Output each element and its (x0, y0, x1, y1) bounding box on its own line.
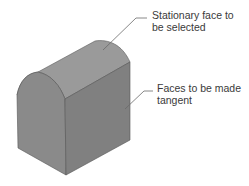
callout-tangent-line1: Faces to be made (157, 82, 241, 94)
callout-tangent-line2: tangent (157, 94, 241, 106)
callout-stationary-line2: be selected (152, 21, 234, 33)
callout-stationary-face: Stationary face to be selected (152, 9, 234, 33)
left-arched-face (17, 72, 66, 175)
callout-tangent-faces: Faces to be made tangent (157, 82, 241, 106)
callout-stationary-line1: Stationary face to (152, 9, 234, 21)
